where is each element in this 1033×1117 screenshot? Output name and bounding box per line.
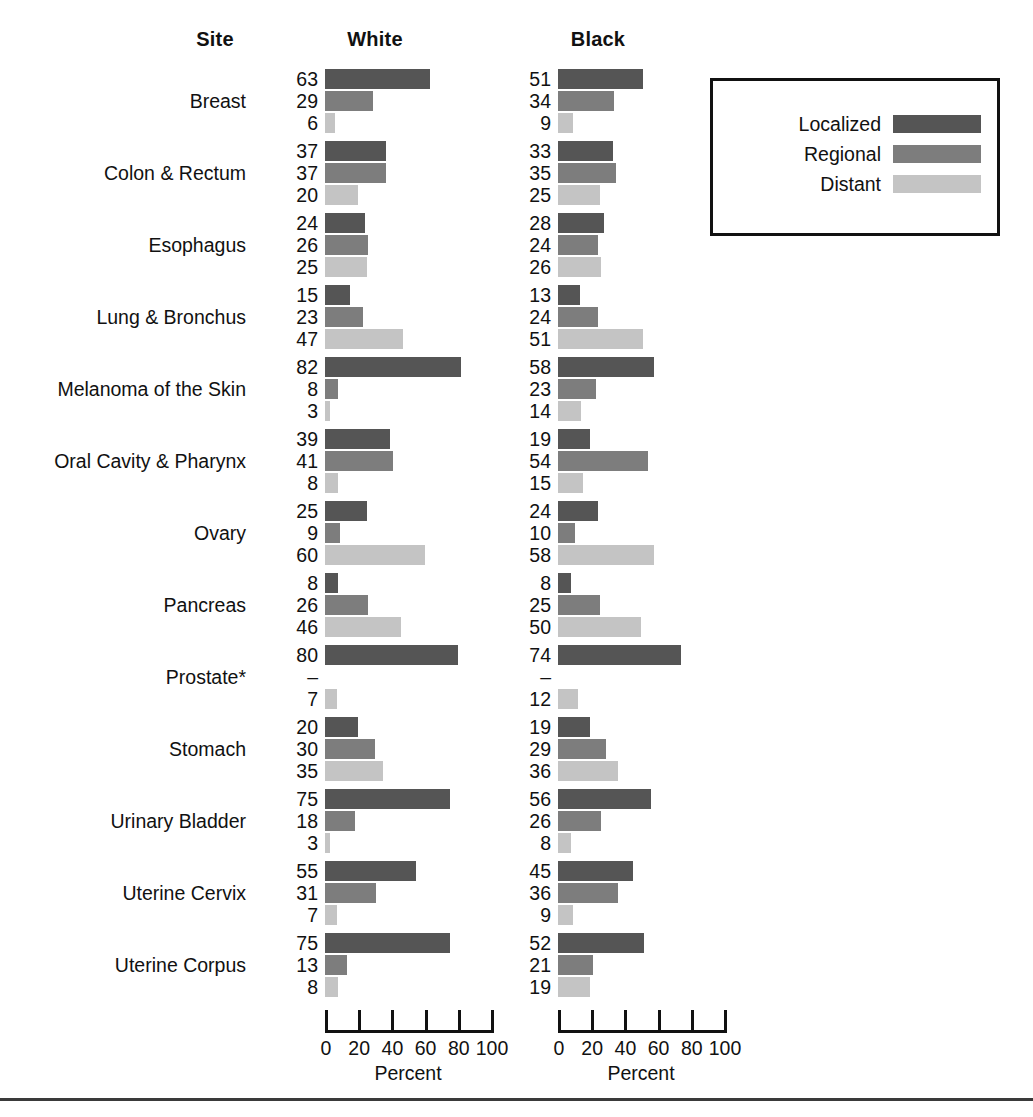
- bar-value-regional: –: [491, 666, 551, 688]
- bar-distant: [325, 977, 338, 997]
- bar-line-distant: 9: [491, 904, 751, 926]
- bar-line-regional: 26: [258, 594, 518, 616]
- chart-row: Colon & Rectum373720333525: [0, 140, 760, 206]
- bar-group-white: 75138: [258, 932, 518, 998]
- bar-value-regional: 8: [258, 378, 318, 400]
- bar-line-localized: 52: [491, 932, 751, 954]
- bar-group-white: 82646: [258, 572, 518, 638]
- bar-regional: [325, 163, 386, 183]
- bar-value-regional: 41: [258, 450, 318, 472]
- bar-regional: [325, 595, 368, 615]
- bar-value-regional: 26: [258, 594, 318, 616]
- bar-distant: [325, 473, 338, 493]
- bar-value-distant: 47: [258, 328, 318, 350]
- bar-line-localized: 75: [258, 788, 518, 810]
- bar-value-distant: 36: [491, 760, 551, 782]
- bar-line-localized: 33: [491, 140, 751, 162]
- bar-value-distant: 8: [258, 472, 318, 494]
- bar-value-distant: 46: [258, 616, 318, 638]
- bar-line-regional: 37: [258, 162, 518, 184]
- bar-value-localized: 74: [491, 644, 551, 666]
- chart-row: Breast6329651349: [0, 68, 760, 134]
- bar-line-distant: 3: [258, 832, 518, 854]
- bar-line-distant: 9: [491, 112, 751, 134]
- bar-value-distant: 51: [491, 328, 551, 350]
- axis-tick: [724, 1010, 727, 1033]
- legend-swatch-regional: [893, 145, 981, 163]
- site-label: Stomach: [0, 737, 246, 761]
- axis-tick: [358, 1010, 361, 1033]
- bar-line-regional: –: [258, 666, 518, 688]
- bar-value-localized: 39: [258, 428, 318, 450]
- bar-value-distant: 14: [491, 400, 551, 422]
- bar-line-regional: 23: [258, 306, 518, 328]
- bar-value-distant: 3: [258, 832, 318, 854]
- bar-distant: [325, 545, 425, 565]
- axis-tick-labels: 020406080100: [258, 1036, 518, 1060]
- site-label: Uterine Corpus: [0, 953, 246, 977]
- bar-line-distant: 25: [491, 184, 751, 206]
- bar-regional: [325, 523, 340, 543]
- bar-line-distant: 14: [491, 400, 751, 422]
- bar-localized: [325, 501, 367, 521]
- bar-value-distant: 8: [258, 976, 318, 998]
- bar-group-white: 25960: [258, 500, 518, 566]
- bar-regional: [325, 235, 368, 255]
- bar-line-distant: 15: [491, 472, 751, 494]
- bar-group-black: 51349: [491, 68, 751, 134]
- bar-distant: [558, 689, 578, 709]
- bar-value-regional: 35: [491, 162, 551, 184]
- chart-row: Uterine Cervix5531745369: [0, 860, 760, 926]
- bar-regional: [558, 595, 600, 615]
- bar-value-regional: 30: [258, 738, 318, 760]
- bar-line-regional: 35: [491, 162, 751, 184]
- site-label: Melanoma of the Skin: [0, 377, 246, 401]
- bar-line-regional: 26: [258, 234, 518, 256]
- bar-value-localized: 13: [491, 284, 551, 306]
- bar-group-white: 152347: [258, 284, 518, 350]
- bar-value-distant: 19: [491, 976, 551, 998]
- bar-value-regional: 25: [491, 594, 551, 616]
- column-header-site: Site: [185, 28, 245, 51]
- axis-tick: [591, 1010, 594, 1033]
- chart-row: Pancreas8264682550: [0, 572, 760, 638]
- bar-localized: [558, 141, 613, 161]
- bar-regional: [325, 955, 347, 975]
- bar-line-distant: 60: [258, 544, 518, 566]
- bar-value-localized: 8: [258, 572, 318, 594]
- bar-localized: [325, 285, 350, 305]
- site-label: Colon & Rectum: [0, 161, 246, 185]
- bar-localized: [558, 861, 633, 881]
- bar-distant: [325, 329, 403, 349]
- bar-value-regional: 29: [258, 90, 318, 112]
- bar-line-localized: 15: [258, 284, 518, 306]
- axis-tick: [624, 1010, 627, 1033]
- bar-line-distant: 25: [258, 256, 518, 278]
- bar-line-distant: 8: [258, 472, 518, 494]
- site-label: Breast: [0, 89, 246, 113]
- bar-group-black: 333525: [491, 140, 751, 206]
- bar-line-regional: 23: [491, 378, 751, 400]
- column-header-black: Black: [553, 28, 643, 51]
- chart-row: Esophagus242625282426: [0, 212, 760, 278]
- bar-group-black: 195415: [491, 428, 751, 494]
- bar-group-black: 132451: [491, 284, 751, 350]
- bar-value-localized: 45: [491, 860, 551, 882]
- bar-line-distant: 26: [491, 256, 751, 278]
- bar-value-regional: 36: [491, 882, 551, 904]
- bar-regional: [325, 739, 375, 759]
- bar-line-regional: 36: [491, 882, 751, 904]
- bar-line-distant: 58: [491, 544, 751, 566]
- bar-value-regional: 37: [258, 162, 318, 184]
- bar-value-distant: 7: [258, 688, 318, 710]
- bar-value-distant: 20: [258, 184, 318, 206]
- axis-title: Percent: [558, 1062, 724, 1085]
- bar-value-localized: 80: [258, 644, 318, 666]
- bar-value-regional: 26: [491, 810, 551, 832]
- bar-value-localized: 58: [491, 356, 551, 378]
- bar-distant: [558, 473, 583, 493]
- bar-line-localized: 75: [258, 932, 518, 954]
- bar-localized: [558, 357, 654, 377]
- bar-distant: [325, 401, 330, 421]
- bar-value-distant: 3: [258, 400, 318, 422]
